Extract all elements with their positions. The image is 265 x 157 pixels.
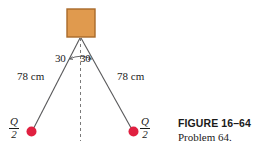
block-shape <box>67 9 95 37</box>
figure-caption-title: FIGURE 16–64 <box>178 117 264 129</box>
charge-left-denominator: 2 <box>9 129 19 140</box>
charge-label-left: Q 2 <box>9 116 19 140</box>
cord-length-label-left: 78 cm <box>17 70 44 82</box>
figure-caption-subtitle: Problem 64. <box>178 131 264 143</box>
angle-label-right: 30 <box>80 52 91 64</box>
charge-right-dot <box>129 127 139 137</box>
charge-label-right: Q 2 <box>140 116 150 140</box>
cord-length-label-right: 78 cm <box>117 70 144 82</box>
figure-container: 30 30 78 cm 78 cm Q 2 Q 2 FIGURE 16–64 P… <box>0 0 265 157</box>
charge-right-numerator: Q <box>140 116 150 127</box>
figure-caption: FIGURE 16–64 Problem 64. <box>178 117 264 143</box>
charge-left-dot <box>27 127 37 137</box>
charge-left-numerator: Q <box>9 116 19 127</box>
angle-label-left: 30 <box>55 52 66 64</box>
charge-right-denominator: 2 <box>140 129 150 140</box>
